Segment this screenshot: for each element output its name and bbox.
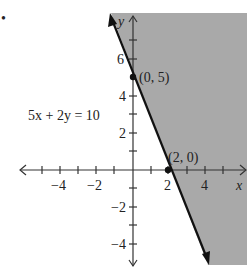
point-0-5 <box>130 74 136 80</box>
x-tick-label: −2 <box>87 178 102 193</box>
x-axis-label: x <box>235 178 243 193</box>
equation-label: 5x + 2y = 10 <box>28 108 100 123</box>
bullet: • <box>1 11 6 26</box>
y-tick-label: 2 <box>119 126 126 141</box>
point-label-0-5: (0, 5) <box>139 70 170 86</box>
x-tick-label: −4 <box>51 178 66 193</box>
y-tick-label: −4 <box>111 237 126 252</box>
y-tick-label: 4 <box>119 89 126 104</box>
arrow-down-icon <box>202 251 210 265</box>
x-tick-label: 2 <box>164 178 171 193</box>
shaded-region <box>111 13 247 265</box>
point-label-2-0: (2, 0) <box>168 150 199 166</box>
x-tick-label: 4 <box>201 178 208 193</box>
inequality-graph: • y x (0, 5) (2, 0) 5x + 2y = 10 −4 −2 2… <box>0 0 252 274</box>
y-tick-label: 6 <box>117 52 124 67</box>
point-2-0 <box>165 167 171 173</box>
y-tick-label: −2 <box>111 200 126 215</box>
y-axis-label: y <box>116 14 125 29</box>
